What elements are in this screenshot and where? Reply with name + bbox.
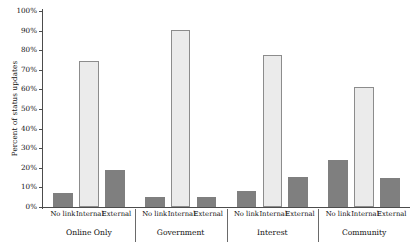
bar (380, 178, 400, 207)
bar (263, 55, 283, 207)
y-axis-tick-label: 50% (21, 104, 37, 113)
bar (197, 197, 217, 207)
y-axis-tick-label: 90% (21, 26, 37, 35)
y-axis-tick-label: 70% (21, 65, 37, 74)
y-axis-tick-label: 30% (21, 143, 37, 152)
bar (237, 191, 257, 207)
category-label: Internal (351, 210, 377, 218)
group-label: Interest (227, 228, 319, 237)
plot-area (43, 11, 410, 207)
bar (328, 160, 348, 207)
category-label: No link (50, 210, 76, 218)
category-tick-labels: No linkInternalExternalNo linkInternalEx… (43, 210, 410, 222)
bar (171, 30, 191, 207)
y-axis-tick-label: 10% (21, 182, 37, 191)
x-axis-line (42, 207, 410, 208)
y-axis-tick-label: 60% (21, 84, 37, 93)
bar-chart: Percent of status updates 0%10%20%30%40%… (0, 0, 414, 249)
group-label: Online Only (43, 228, 135, 237)
group-label: Community (318, 228, 410, 237)
category-label: Internal (259, 210, 285, 218)
y-axis-tick-label: 100% (16, 6, 37, 15)
category-label: External (194, 210, 220, 218)
category-label: Internal (168, 210, 194, 218)
y-axis-title: Percent of status updates (10, 39, 19, 179)
category-label: External (377, 210, 403, 218)
y-axis-tick-mark (39, 207, 43, 208)
bar (53, 193, 73, 207)
y-axis-tick-label: 20% (21, 163, 37, 172)
bar (288, 177, 308, 207)
category-label: No link (325, 210, 351, 218)
group-label: Government (135, 228, 227, 237)
y-axis-tick-label: 80% (21, 45, 37, 54)
category-label: No link (234, 210, 260, 218)
bar (79, 61, 99, 207)
category-label: Internal (76, 210, 102, 218)
bar (105, 170, 125, 207)
bar (145, 197, 165, 207)
bar (354, 87, 374, 207)
group-labels: Online OnlyGovernmentInterestCommunity (43, 228, 410, 242)
y-axis-tick-label: 40% (21, 124, 37, 133)
category-label: External (285, 210, 311, 218)
y-axis-tick-label: 0% (26, 202, 37, 211)
category-label: External (102, 210, 128, 218)
category-label: No link (142, 210, 168, 218)
